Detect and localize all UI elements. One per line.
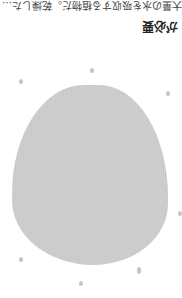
gray-blob-shape xyxy=(12,85,168,265)
speck xyxy=(137,267,141,274)
rotated-canvas: が必要 大量の水を吸収する植物だ。乾燥した… xyxy=(0,0,182,298)
speck xyxy=(19,79,23,84)
speck xyxy=(19,257,23,262)
heading: が必要 xyxy=(128,19,178,36)
body-text: 大量の水を吸収する植物だ。乾燥した… xyxy=(0,0,182,14)
speck xyxy=(90,68,94,73)
speck xyxy=(166,91,170,96)
speck xyxy=(79,281,83,286)
speck xyxy=(178,211,182,216)
